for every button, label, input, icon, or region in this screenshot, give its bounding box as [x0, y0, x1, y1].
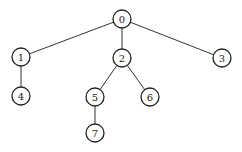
node-label: 2 [119, 53, 125, 64]
tree-node-3: 3 [213, 49, 231, 67]
node-label: 5 [92, 92, 98, 103]
edge-2-5 [100, 65, 117, 89]
tree-diagram: 01234567 [0, 0, 242, 152]
edge-0-1 [29, 22, 113, 54]
node-label: 0 [119, 14, 125, 25]
edges [21, 22, 214, 124]
node-label: 1 [18, 52, 24, 63]
tree-node-4: 4 [12, 87, 30, 105]
edge-2-6 [127, 65, 145, 89]
tree-node-2: 2 [113, 49, 131, 67]
node-label: 6 [147, 92, 153, 103]
tree-node-7: 7 [86, 124, 104, 142]
edge-0-3 [130, 22, 213, 54]
node-label: 4 [18, 91, 24, 102]
tree-node-6: 6 [141, 88, 159, 106]
node-label: 7 [92, 128, 98, 139]
tree-node-0: 0 [113, 10, 131, 28]
tree-node-5: 5 [86, 88, 104, 106]
node-label: 3 [219, 53, 225, 64]
tree-node-1: 1 [12, 48, 30, 66]
